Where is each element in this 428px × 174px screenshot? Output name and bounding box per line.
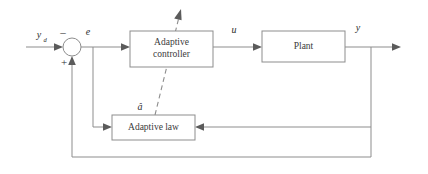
wire-control-u [213,43,262,51]
wire-plant-output-y [345,43,401,51]
summing-junction[interactable] [63,38,81,56]
signal-label-output: y [355,22,361,33]
signal-label-reference: y d [36,29,48,42]
wire-outer-feedback-loop [68,56,371,157]
adaptive-controller-label-line2: controller [153,49,191,59]
signal-reference-subscript: d [44,36,48,43]
block-diagram-svg: Adaptive controller Plant Adaptive law y… [0,0,428,174]
wire-error-branch-to-adaptive-law [93,47,112,131]
plant-label: Plant [294,41,314,51]
signal-reference-base: y [36,29,42,40]
wire-reference-input [26,43,63,51]
block-diagram-canvas: Adaptive controller Plant Adaptive law y… [0,0,428,174]
summing-junction-plus-sign: + [61,56,67,68]
summing-junction-minus-sign: – [59,26,66,38]
adaptive-law-label: Adaptive law [128,122,179,132]
wire-feedback-to-adaptive-law [195,123,371,131]
wire-error [81,43,130,51]
signal-label-parameter-estimate: â [138,101,143,112]
signal-label-control: u [232,24,237,35]
adaptive-controller-label-line1: Adaptive [154,37,189,47]
signal-label-error: e [86,26,91,37]
